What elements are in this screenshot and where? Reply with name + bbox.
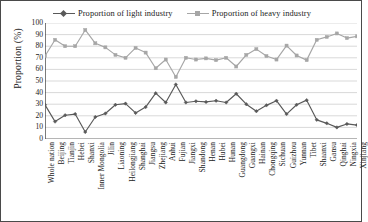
data-point bbox=[355, 123, 357, 127]
series-heavy-industry bbox=[45, 28, 357, 78]
y-tick-label: 20 bbox=[19, 112, 43, 120]
y-tick-label: 40 bbox=[19, 89, 43, 97]
data-point bbox=[305, 59, 308, 62]
series-line bbox=[45, 84, 357, 132]
x-tick-label: Beijing bbox=[58, 142, 66, 220]
data-point bbox=[134, 46, 137, 49]
x-tick-label: Shanghai bbox=[139, 142, 147, 220]
x-tick-label: Hubei bbox=[219, 142, 227, 220]
x-tick-label: Henan bbox=[209, 142, 217, 220]
x-tick-label: Shanxi bbox=[88, 142, 96, 220]
x-tick-label: Guizhou bbox=[290, 142, 298, 220]
x-tick-label: Jilin bbox=[108, 142, 116, 220]
data-point bbox=[174, 75, 177, 78]
data-point bbox=[225, 56, 228, 59]
data-point bbox=[84, 28, 87, 31]
series-line bbox=[45, 30, 357, 77]
data-point bbox=[45, 55, 47, 58]
x-axis-tick-labels: Whole nationBeijingTianjinHebeiShanxiInn… bbox=[45, 142, 357, 220]
y-tick-label: 10 bbox=[19, 123, 43, 131]
legend-marker-light-industry bbox=[53, 9, 75, 18]
x-tick-label: Hebei bbox=[78, 142, 86, 220]
data-point bbox=[335, 32, 338, 35]
y-tick-label: 60 bbox=[19, 65, 43, 73]
data-point bbox=[265, 55, 268, 58]
x-tick-label: Anhui bbox=[169, 142, 177, 220]
data-point bbox=[144, 51, 147, 54]
x-tick-label: Liaoning bbox=[118, 142, 126, 220]
y-axis-tick-labels: 1009080706050403020100 bbox=[15, 23, 43, 139]
data-point bbox=[355, 35, 357, 38]
x-tick-label: Gansu bbox=[330, 142, 338, 220]
diamond-icon bbox=[60, 9, 67, 16]
x-tick-label: Yunnan bbox=[300, 142, 308, 220]
data-point bbox=[154, 67, 157, 70]
data-point bbox=[255, 48, 258, 51]
chart-legend: Proportion of light industry Proportion … bbox=[1, 6, 363, 20]
data-point bbox=[335, 126, 339, 129]
x-tick-label: Chongqing bbox=[269, 142, 277, 220]
x-tick-label: Shandong bbox=[199, 142, 207, 220]
y-tick-label: 70 bbox=[19, 54, 43, 62]
square-icon bbox=[195, 11, 200, 16]
x-tick-label: Hunan bbox=[229, 142, 237, 220]
x-tick-label: Fujian bbox=[179, 142, 187, 220]
data-point bbox=[204, 57, 207, 60]
data-point bbox=[204, 100, 208, 104]
data-point bbox=[345, 37, 348, 40]
data-point bbox=[164, 58, 167, 61]
legend-marker-heavy-industry bbox=[187, 9, 209, 18]
y-tick-label: 80 bbox=[19, 42, 43, 50]
x-tick-label: Jiangxi bbox=[189, 142, 197, 220]
data-point bbox=[315, 38, 318, 41]
x-tick-label: Qinghai bbox=[340, 142, 348, 220]
x-tick-label: Xinjiang bbox=[360, 142, 368, 220]
x-tick-label: Hainan bbox=[259, 142, 267, 220]
data-point bbox=[54, 38, 57, 41]
data-point bbox=[94, 42, 97, 45]
data-point bbox=[194, 100, 198, 104]
legend-item-light-industry[interactable]: Proportion of light industry bbox=[53, 9, 173, 18]
legend-item-heavy-industry[interactable]: Proportion of heavy industry bbox=[187, 9, 311, 18]
x-tick-label: Guangdong bbox=[239, 142, 247, 220]
data-point bbox=[325, 35, 328, 38]
x-tick-label: Inner Mongolia bbox=[98, 142, 106, 220]
x-tick-label: Zhejiang bbox=[159, 142, 167, 220]
data-point bbox=[295, 54, 298, 57]
x-tick-label: Whole nation bbox=[48, 142, 56, 220]
x-tick-label: Tibet bbox=[310, 142, 318, 220]
data-point bbox=[184, 56, 187, 59]
data-point bbox=[245, 53, 248, 56]
data-point bbox=[285, 44, 288, 47]
y-tick-label: 30 bbox=[19, 100, 43, 108]
data-point bbox=[114, 53, 117, 56]
legend-label-light-industry: Proportion of light industry bbox=[78, 9, 173, 18]
data-point bbox=[275, 58, 278, 61]
data-point bbox=[235, 65, 238, 68]
y-tick-label: 0 bbox=[19, 135, 43, 143]
x-tick-label: Tianjin bbox=[68, 142, 76, 220]
data-point bbox=[74, 45, 77, 48]
legend-label-heavy-industry: Proportion of heavy industry bbox=[212, 9, 311, 18]
data-point bbox=[64, 45, 67, 48]
x-tick-label: Shaanxi bbox=[320, 142, 328, 220]
x-tick-label: Heilongjiang bbox=[129, 142, 137, 220]
plot-area bbox=[45, 23, 357, 139]
x-tick-label: Jiangsu bbox=[149, 142, 157, 220]
x-tick-label: Ningxia bbox=[350, 142, 358, 220]
data-point bbox=[214, 99, 218, 103]
y-tick-label: 90 bbox=[19, 31, 43, 39]
y-tick-label: 50 bbox=[19, 77, 43, 85]
x-tick-label: Sichuan bbox=[279, 142, 287, 220]
data-point bbox=[104, 46, 107, 49]
data-point bbox=[215, 59, 218, 62]
y-tick-label: 100 bbox=[19, 19, 43, 27]
chart-svg bbox=[45, 23, 357, 139]
series-light-industry bbox=[45, 83, 357, 134]
data-point bbox=[325, 122, 329, 126]
x-tick-label: Guangxi bbox=[249, 142, 257, 220]
data-point bbox=[345, 122, 349, 126]
data-point bbox=[124, 56, 127, 59]
data-point bbox=[194, 58, 197, 61]
